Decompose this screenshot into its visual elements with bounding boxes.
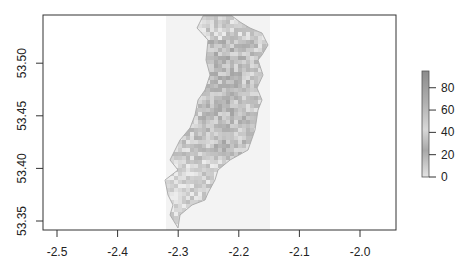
raster-map-chart: -2.5-2.4-2.3-2.2-2.1-2.0 53.3553.4053.45…	[0, 0, 473, 276]
colorbar	[422, 71, 429, 177]
x-tick-label: -2.0	[350, 245, 371, 259]
x-axis: -2.5-2.4-2.3-2.2-2.1-2.0	[47, 230, 371, 259]
y-tick-label: 53.35	[15, 206, 29, 236]
x-tick-label: -2.3	[168, 245, 189, 259]
y-tick-label: 53.40	[15, 153, 29, 183]
colorbar-tick-label: 60	[441, 103, 455, 117]
colorbar-tick-label: 0	[441, 170, 448, 184]
x-tick-label: -2.5	[47, 245, 68, 259]
y-axis: 53.3553.4053.4553.50	[15, 48, 43, 236]
y-tick-label: 53.50	[15, 48, 29, 78]
colorbar-tick-label: 80	[441, 81, 455, 95]
colorbar-tick-label: 20	[441, 148, 455, 162]
y-tick-label: 53.45	[15, 100, 29, 130]
x-tick-label: -2.1	[289, 245, 310, 259]
colorbar-tick-label: 40	[441, 125, 455, 139]
x-tick-label: -2.4	[107, 245, 128, 259]
x-tick-label: -2.2	[228, 245, 249, 259]
colorbar-legend: 020406080	[422, 71, 455, 184]
